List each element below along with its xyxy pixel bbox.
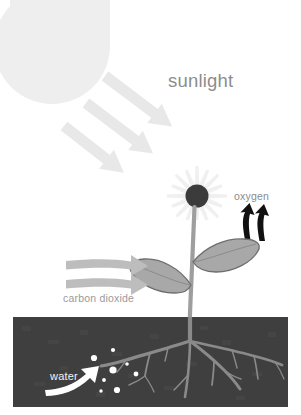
- photosynthesis-diagram: sunlight oxygen carbon dioxide water: [0, 0, 301, 415]
- diagram-canvas: [0, 0, 301, 415]
- flower-center: [186, 185, 209, 208]
